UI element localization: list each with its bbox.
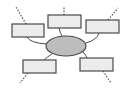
connector-bottom-left (44, 54, 52, 60)
dotted-extension-top-right (108, 8, 118, 20)
branch-box-top-left (12, 24, 44, 37)
branch-box-bottom-left (23, 60, 56, 73)
connector-bottom-right (83, 52, 87, 58)
dotted-extension-bottom-right (103, 71, 111, 83)
dotted-extension-top-left (16, 7, 26, 24)
branch-box-top-center (48, 15, 81, 28)
connector-top-left (27, 37, 47, 44)
central-node (46, 36, 86, 56)
spider-diagram (0, 0, 128, 90)
branch-box-top-right (86, 20, 119, 33)
branch-box-bottom-right (80, 58, 113, 71)
connector-top-center (59, 28, 62, 36)
dotted-extension-bottom-left (20, 73, 28, 83)
connector-top-right (86, 33, 99, 43)
